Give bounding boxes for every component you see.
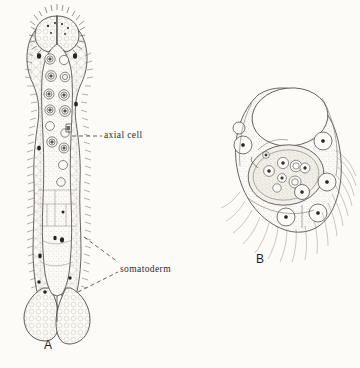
figure-label-b: B	[256, 252, 265, 266]
leader-somatoderm-upper	[84, 237, 118, 262]
label-somatoderm: somatoderm	[120, 264, 171, 274]
panel-a-organism	[24, 4, 93, 344]
panel-b-larva	[221, 84, 356, 262]
panel-a-axial-cell	[42, 44, 73, 296]
figure-label-a: A	[44, 338, 53, 352]
label-axial-cell: axial cell	[104, 130, 143, 140]
illustration-page: axial cell somatoderm A B	[0, 0, 360, 368]
figure-artwork	[0, 0, 360, 368]
leader-somatoderm-lower	[78, 272, 118, 292]
